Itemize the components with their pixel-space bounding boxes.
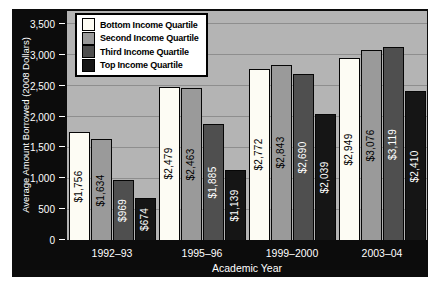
legend-swatch — [82, 45, 95, 58]
y-tick-label: 1,500 — [30, 142, 55, 153]
y-tick-label: 1,000 — [30, 173, 55, 184]
legend-label: Second Income Quartile — [100, 33, 199, 43]
bar-value-label: $2,479 — [164, 148, 175, 180]
x-axis-labels: 1992–931995–961999–20002003–04 — [67, 247, 427, 260]
legend-item: Bottom Income Quartile — [82, 18, 199, 31]
y-tick-mark — [59, 54, 65, 55]
category-label: 1992–93 — [92, 247, 133, 259]
y-tick-mark — [59, 23, 65, 24]
y-tick-mark — [59, 116, 65, 117]
bar: $3,076 — [361, 50, 382, 240]
bar: $1,139 — [225, 170, 246, 240]
bar-value-label: $2,463 — [186, 149, 197, 181]
bar-value-label: $3,119 — [388, 129, 399, 160]
y-tick-mark — [59, 177, 65, 178]
bar: $2,690 — [293, 74, 314, 240]
legend-item: Top Income Quartile — [82, 59, 199, 72]
legend-item: Second Income Quartile — [82, 32, 199, 45]
bar: $2,463 — [181, 88, 202, 240]
legend-swatch — [82, 18, 95, 31]
legend-label: Top Income Quartile — [100, 60, 183, 70]
y-tick-label: 0 — [49, 235, 55, 246]
y-tick-mark — [59, 239, 65, 240]
category-label: 2003–04 — [362, 247, 403, 259]
bar: $2,410 — [405, 91, 426, 240]
legend-swatch — [82, 59, 95, 72]
y-tick-label: 2,500 — [30, 80, 55, 91]
bar: $2,479 — [159, 87, 180, 240]
y-tick-label: 500 — [38, 204, 55, 215]
y-axis: 05001,0001,5002,0002,5003,0003,500 — [12, 11, 67, 240]
y-tick-label: 3,500 — [30, 18, 55, 29]
bar-value-label: $2,039 — [320, 162, 331, 194]
legend-label: Third Income Quartile — [100, 47, 189, 57]
bar: $2,039 — [315, 114, 336, 240]
bar: $1,756 — [69, 132, 90, 240]
bar: $1,634 — [91, 139, 112, 240]
bar-value-label: $2,690 — [298, 142, 309, 174]
legend-swatch — [82, 32, 95, 45]
bar: $674 — [135, 198, 156, 240]
bar-value-label: $2,772 — [254, 139, 265, 171]
bar: $2,949 — [339, 58, 360, 240]
category-label: 1995–96 — [182, 247, 223, 259]
bar-value-label: $2,843 — [276, 137, 287, 169]
legend: Bottom Income QuartileSecond Income Quar… — [75, 13, 208, 77]
bar-value-label: $1,139 — [230, 189, 241, 221]
y-tick-label: 2,000 — [30, 111, 55, 122]
legend-item: Third Income Quartile — [82, 45, 199, 58]
x-axis-title: Academic Year — [67, 262, 427, 274]
bar-value-label: $969 — [118, 199, 129, 222]
bar-value-label: $1,634 — [96, 174, 107, 206]
y-tick-label: 3,000 — [30, 49, 55, 60]
bar-value-label: $3,076 — [366, 130, 377, 162]
bar-value-label: $1,885 — [208, 166, 219, 198]
bar-value-label: $1,756 — [74, 170, 85, 202]
bar: $969 — [113, 180, 134, 240]
bar-value-label: $674 — [140, 208, 151, 231]
bar-chart: Average Amount Borrowed (2008 Dollars) 0… — [12, 9, 428, 277]
bar: $2,843 — [271, 65, 292, 240]
bar: $1,885 — [203, 124, 224, 240]
bar: $3,119 — [383, 47, 404, 240]
category-label: 1999–2000 — [266, 247, 319, 259]
y-tick-mark — [59, 208, 65, 209]
bar-value-label: $2,410 — [410, 150, 421, 182]
bar: $2,772 — [249, 69, 270, 240]
legend-label: Bottom Income Quartile — [100, 20, 198, 30]
y-tick-mark — [59, 85, 65, 86]
y-tick-mark — [59, 146, 65, 147]
bar-value-label: $2,949 — [344, 134, 355, 166]
